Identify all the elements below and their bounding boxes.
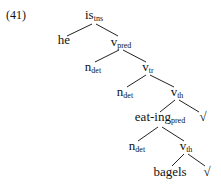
tree-edges: [0, 0, 221, 192]
node-subscript: det: [135, 145, 145, 154]
tree-node: eat-ingpred: [135, 110, 185, 124]
node-label: bagels: [153, 164, 186, 179]
tree-node: bagels: [153, 165, 186, 179]
tree-node: he: [58, 33, 70, 47]
node-subscript: pred: [171, 116, 185, 125]
tree-node: ndet: [117, 85, 133, 99]
node-label: √: [203, 164, 210, 179]
tree-node: istns: [85, 8, 103, 22]
tree-node: ndet: [85, 60, 101, 74]
tree-node: √: [203, 165, 210, 179]
tree-node: vth: [171, 85, 184, 99]
node-label: √: [199, 109, 206, 124]
node-subscript: det: [91, 66, 101, 75]
tree-node: vpred: [111, 35, 132, 49]
node-subscript: th: [177, 91, 183, 100]
node-subscript: det: [123, 91, 133, 100]
tree-node: vth: [180, 139, 193, 153]
tree-node: vtr: [142, 60, 153, 74]
node-label: he: [58, 32, 70, 47]
node-subscript: pred: [117, 41, 131, 50]
tree-edge: [67, 24, 92, 36]
node-label: is: [85, 7, 94, 22]
node-label: eat-ing: [135, 109, 171, 124]
node-subscript: th: [186, 145, 192, 154]
tree-node: ndet: [129, 139, 145, 153]
tree-node: √: [199, 110, 206, 124]
node-subscript: tns: [94, 14, 103, 23]
node-subscript: tr: [149, 66, 154, 75]
